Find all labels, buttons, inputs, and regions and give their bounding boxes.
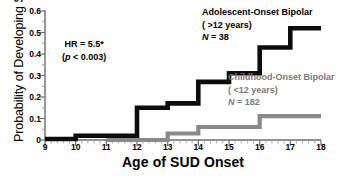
x-tick-marks	[45, 140, 321, 146]
adolescent-series-title: Adolescent-Onset Bipolar	[202, 6, 313, 19]
childhood-series-title: Childhood-Onset Bipolar	[228, 71, 335, 84]
adolescent-series-sample-size: N = 38	[202, 31, 313, 44]
adolescent-series-age-range: ( >12 years)	[202, 19, 313, 32]
childhood-series-sample-size: N = 182	[228, 96, 335, 109]
childhood-series-age-range: ( <12 years)	[228, 84, 335, 97]
x-tick-10: 10	[71, 142, 80, 152]
x-tick-16: 16	[255, 142, 264, 152]
hazard-ratio-pvalue: (p < 0.003)	[62, 51, 106, 64]
x-tick-11: 11	[102, 142, 111, 152]
x-tick-14: 14	[194, 142, 203, 152]
x-tick-18: 18	[316, 142, 325, 152]
hazard-ratio-value: HR = 5.5*	[62, 38, 106, 51]
x-tick-15: 15	[224, 142, 233, 152]
hazard-ratio-annotation: HR = 5.5* (p < 0.003)	[62, 38, 106, 63]
x-tick-17: 17	[286, 142, 295, 152]
figure-container: Probability of Developing SUD 0.6 0.5 0.…	[0, 0, 353, 186]
p-value-rest: < 0.003)	[71, 52, 107, 62]
x-tick-9: 9	[43, 142, 48, 152]
x-tick-13: 13	[163, 142, 172, 152]
x-axis-label: Age of SUD Onset	[45, 154, 321, 170]
adolescent-series-annotation: Adolescent-Onset Bipolar ( >12 years) N …	[202, 6, 313, 44]
figure-footnote	[45, 178, 321, 186]
n-value: = 38	[209, 32, 229, 42]
x-tick-12: 12	[132, 142, 141, 152]
childhood-series-annotation: Childhood-Onset Bipolar ( <12 years) N =…	[228, 71, 335, 109]
n-value: = 182	[235, 97, 260, 107]
